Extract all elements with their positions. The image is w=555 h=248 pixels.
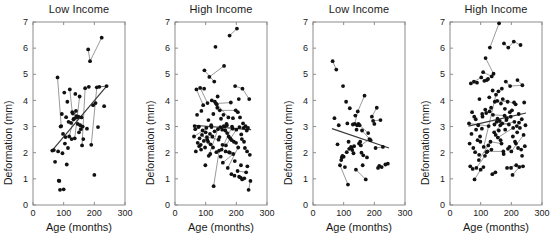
data-point <box>374 146 378 150</box>
data-point <box>497 129 501 133</box>
connector-line <box>58 77 62 126</box>
data-point <box>343 165 347 169</box>
plot-area: 012345670100200300 <box>0 0 150 248</box>
data-point <box>484 56 488 60</box>
data-point <box>361 163 365 167</box>
y-tick-label: 1 <box>440 174 445 184</box>
data-point <box>524 123 528 127</box>
data-point <box>61 132 65 136</box>
data-point <box>346 183 350 187</box>
y-tick-label: 0 <box>440 200 445 210</box>
data-point <box>489 140 493 144</box>
data-point <box>511 126 515 130</box>
data-point <box>500 122 504 126</box>
data-point <box>245 164 249 168</box>
data-point <box>347 140 351 144</box>
data-point <box>492 72 496 76</box>
data-point <box>514 142 518 146</box>
data-point <box>229 101 233 105</box>
data-point <box>203 68 207 72</box>
connector-line <box>223 154 233 163</box>
chart-panel-2: High Income012345670100200300Deformation… <box>140 0 292 248</box>
data-point <box>233 84 237 88</box>
data-point <box>198 136 202 140</box>
data-point <box>470 132 474 136</box>
data-point <box>105 84 109 88</box>
y-tick-label: 1 <box>23 174 28 184</box>
data-point <box>62 91 66 95</box>
data-point <box>511 173 515 177</box>
data-point <box>249 179 253 183</box>
y-tick-label: 2 <box>440 148 445 158</box>
data-point <box>192 135 196 139</box>
plot-area: 012345670100200300 <box>280 0 430 248</box>
data-point <box>66 146 70 150</box>
data-point <box>58 188 62 192</box>
data-point <box>360 129 364 133</box>
data-point <box>345 150 349 154</box>
data-point <box>236 110 240 114</box>
x-tick-label: 300 <box>259 208 274 218</box>
x-axis-label: Age (months) <box>420 221 555 233</box>
data-point <box>479 76 483 80</box>
data-point <box>236 146 240 150</box>
data-point <box>71 112 75 116</box>
x-axis-label: Age (months) <box>283 221 435 233</box>
data-point <box>215 150 219 154</box>
x-tick-label: 200 <box>504 208 519 218</box>
data-point <box>247 188 251 192</box>
data-point <box>502 42 506 46</box>
data-point <box>471 167 475 171</box>
data-point <box>491 89 495 93</box>
data-point <box>205 138 209 142</box>
data-point <box>482 145 486 149</box>
data-point <box>380 165 384 169</box>
data-point <box>359 143 363 147</box>
data-point <box>96 125 100 129</box>
data-point <box>94 101 98 105</box>
data-point <box>334 68 338 72</box>
data-point <box>467 122 471 126</box>
connector-line <box>355 111 358 124</box>
data-point <box>53 160 57 164</box>
data-point <box>97 85 101 89</box>
data-point <box>195 113 199 117</box>
connector-line <box>356 170 366 180</box>
x-tick-label: 0 <box>310 208 315 218</box>
data-point <box>80 143 84 147</box>
data-point <box>224 143 228 147</box>
data-point <box>512 40 516 44</box>
data-point <box>202 87 206 91</box>
data-point <box>68 88 72 92</box>
data-point <box>81 137 85 141</box>
data-point <box>338 163 342 167</box>
data-point <box>363 94 367 98</box>
x-axis-label: Age (months) <box>3 221 155 233</box>
data-point <box>245 150 249 154</box>
data-point <box>239 163 243 167</box>
y-tick-label: 5 <box>23 69 28 79</box>
x-tick-label: 200 <box>229 208 244 218</box>
data-point <box>65 100 69 104</box>
data-point <box>218 108 222 112</box>
data-point <box>247 97 251 101</box>
data-point <box>225 131 229 135</box>
data-point <box>478 135 482 139</box>
data-point <box>479 168 483 172</box>
chart-panel-3: Low Income012345670100200300Deformation … <box>280 0 430 248</box>
y-tick-label: 5 <box>303 69 308 79</box>
data-point <box>342 155 346 159</box>
data-point <box>503 128 507 132</box>
x-tick-label: 100 <box>198 208 213 218</box>
data-point <box>61 151 65 155</box>
data-point <box>65 163 69 167</box>
data-point <box>203 146 207 150</box>
data-point <box>81 125 85 129</box>
plot-area: 012345670100200300 <box>140 0 292 248</box>
data-point <box>69 121 73 125</box>
data-point <box>102 104 106 108</box>
data-point <box>480 112 484 116</box>
y-tick-label: 2 <box>23 148 28 158</box>
data-point <box>354 168 358 172</box>
data-point <box>204 130 208 134</box>
